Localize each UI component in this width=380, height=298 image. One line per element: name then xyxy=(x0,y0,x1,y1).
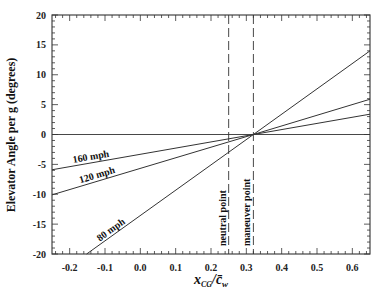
y-tick-label: 15 xyxy=(36,39,46,50)
y-tick-label: 20 xyxy=(36,10,46,21)
y-tick-label: -5 xyxy=(38,159,46,170)
y-tick-label: -20 xyxy=(33,249,46,260)
plot-area: -0.2-0.10.00.10.20.30.40.50.6-20-15-10-5… xyxy=(33,10,370,274)
series-line-120-mph xyxy=(52,99,370,195)
maneuver-point-label: maneuver point xyxy=(241,178,252,246)
x-tick-label: -0.2 xyxy=(62,262,78,273)
y-tick-label: -10 xyxy=(33,189,46,200)
x-tick-label: 0.6 xyxy=(346,262,359,273)
y-tick-label: -15 xyxy=(33,219,46,230)
y-axis-title: Elevator Angle per g (degrees) xyxy=(4,58,18,213)
series-label: 80 mph xyxy=(94,215,127,243)
x-tick-label: 0.5 xyxy=(311,262,324,273)
x-tick-label: 0.1 xyxy=(169,262,182,273)
y-tick-label: 5 xyxy=(41,99,46,110)
chart: -0.2-0.10.00.10.20.30.40.50.6-20-15-10-5… xyxy=(0,0,380,298)
x-tick-label: -0.1 xyxy=(97,262,113,273)
neutral-point-label: neutral point xyxy=(217,189,228,246)
y-tick-label: 0 xyxy=(41,129,46,140)
x-tick-label: 0.0 xyxy=(134,262,147,273)
x-tick-label: 0.3 xyxy=(240,262,253,273)
series-label: 120 mph xyxy=(78,164,117,185)
series-line-160-mph xyxy=(52,114,370,170)
x-tick-label: 0.4 xyxy=(275,262,288,273)
y-tick-label: 10 xyxy=(36,69,46,80)
x-axis-title: xCG/c̄w xyxy=(193,272,229,289)
